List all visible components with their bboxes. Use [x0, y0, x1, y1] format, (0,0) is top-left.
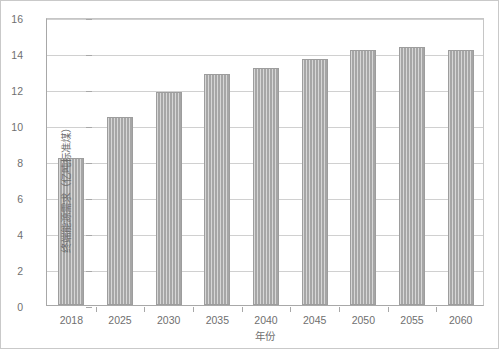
- y-tick-label: 10: [0, 121, 23, 133]
- x-tick-mark: [193, 307, 194, 312]
- bar-slot: [339, 19, 388, 305]
- y-tick-mark: [86, 127, 92, 128]
- y-tick-mark: [86, 163, 92, 164]
- y-tick-label: 2: [0, 265, 23, 277]
- bar-slot: [242, 19, 291, 305]
- y-tick-mark: [86, 307, 92, 308]
- y-tick-mark: [86, 199, 92, 200]
- x-tick-mark: [290, 307, 291, 312]
- y-tick-mark: [86, 91, 92, 92]
- bar[interactable]: [156, 92, 182, 305]
- bar-slot: [144, 19, 193, 305]
- plot-area: 0246810121416 20182025203020352040204520…: [46, 18, 484, 306]
- x-tick-mark: [96, 307, 97, 312]
- bar[interactable]: [350, 50, 376, 305]
- bar[interactable]: [302, 59, 328, 305]
- x-tick-mark: [388, 307, 389, 312]
- y-tick-label: 14: [0, 49, 23, 61]
- y-tick-mark: [86, 55, 92, 56]
- bar-slot: [96, 19, 145, 305]
- x-tick-mark: [144, 307, 145, 312]
- bar-slot: [290, 19, 339, 305]
- x-tick-mark: [339, 307, 340, 312]
- bar[interactable]: [253, 68, 279, 305]
- y-tick-label: 0: [0, 301, 23, 313]
- y-tick-label: 12: [0, 85, 23, 97]
- x-axis-title: 年份: [46, 328, 484, 343]
- x-tick-mark: [436, 307, 437, 312]
- bar-slot: [388, 19, 437, 305]
- bar-slot: [436, 19, 485, 305]
- x-tick-mark: [242, 307, 243, 312]
- bar[interactable]: [107, 117, 133, 305]
- bar[interactable]: [399, 47, 425, 305]
- y-tick-mark: [86, 235, 92, 236]
- bar-series: [47, 19, 483, 305]
- y-tick-label: 6: [0, 193, 23, 205]
- chart-figure: 0246810121416 20182025203020352040204520…: [0, 0, 499, 349]
- x-tick-label: 2060: [431, 314, 491, 326]
- y-tick-label: 8: [0, 157, 23, 169]
- bar[interactable]: [448, 50, 474, 305]
- y-tick-label: 4: [0, 229, 23, 241]
- bar[interactable]: [204, 74, 230, 305]
- y-tick-mark: [86, 19, 92, 20]
- y-tick-label: 16: [0, 13, 23, 25]
- bar-slot: [193, 19, 242, 305]
- y-tick-mark: [86, 271, 92, 272]
- y-axis-title: 终端能源需求（亿吨标准煤）: [58, 53, 73, 323]
